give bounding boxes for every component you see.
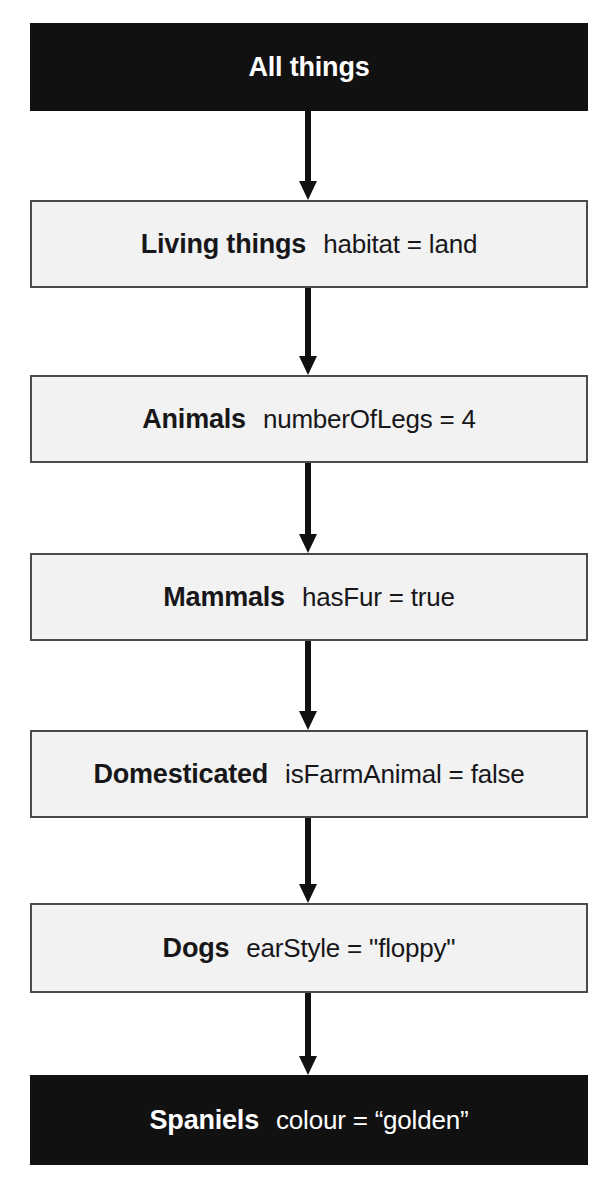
arrow-head-icon bbox=[299, 1056, 317, 1075]
node-attribute: colour = “golden” bbox=[276, 1105, 468, 1136]
edge-all-things-living-things bbox=[299, 111, 317, 200]
edge-dogs-spaniels bbox=[299, 993, 317, 1075]
arrow-shaft bbox=[305, 463, 311, 534]
edge-mammals-domesticated bbox=[299, 641, 317, 730]
arrow-head-icon bbox=[299, 884, 317, 903]
arrow-shaft bbox=[305, 111, 311, 181]
node-label: Spaniels bbox=[150, 1105, 259, 1136]
arrow-head-icon bbox=[299, 534, 317, 553]
inheritance-hierarchy-diagram: All things Living things habitat = land … bbox=[0, 0, 615, 1185]
node-domesticated[interactable]: Domesticated isFarmAnimal = false bbox=[30, 730, 588, 818]
node-attribute: earStyle = "floppy" bbox=[246, 933, 455, 964]
arrow-shaft bbox=[305, 818, 311, 884]
node-attribute: isFarmAnimal = false bbox=[285, 759, 524, 790]
arrow-head-icon bbox=[299, 356, 317, 375]
node-label: Animals bbox=[142, 404, 246, 435]
edge-domesticated-dogs bbox=[299, 818, 317, 903]
arrow-head-icon bbox=[299, 711, 317, 730]
node-dogs[interactable]: Dogs earStyle = "floppy" bbox=[30, 903, 588, 993]
node-label: Dogs bbox=[163, 933, 230, 964]
arrow-shaft bbox=[305, 993, 311, 1056]
node-animals[interactable]: Animals numberOfLegs = 4 bbox=[30, 375, 588, 463]
node-living-things[interactable]: Living things habitat = land bbox=[30, 200, 588, 288]
node-attribute: numberOfLegs = 4 bbox=[263, 404, 476, 435]
arrow-shaft bbox=[305, 641, 311, 711]
node-label: Living things bbox=[141, 229, 306, 260]
node-mammals[interactable]: Mammals hasFur = true bbox=[30, 553, 588, 641]
node-label: Domesticated bbox=[93, 759, 268, 790]
node-label: All things bbox=[249, 52, 370, 83]
node-attribute: habitat = land bbox=[323, 229, 477, 260]
arrow-shaft bbox=[305, 288, 311, 356]
edge-animals-mammals bbox=[299, 463, 317, 553]
node-spaniels[interactable]: Spaniels colour = “golden” bbox=[30, 1075, 588, 1165]
node-all-things[interactable]: All things bbox=[30, 23, 588, 111]
arrow-head-icon bbox=[299, 181, 317, 200]
node-attribute: hasFur = true bbox=[302, 582, 455, 613]
edge-living-things-animals bbox=[299, 288, 317, 375]
node-label: Mammals bbox=[163, 582, 285, 613]
